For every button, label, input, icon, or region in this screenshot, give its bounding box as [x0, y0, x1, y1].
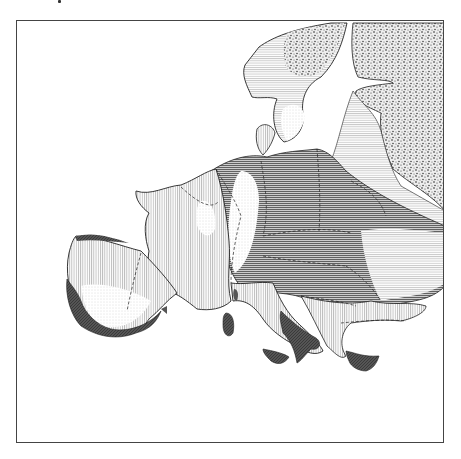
map-frame — [16, 20, 444, 443]
sardinia — [223, 313, 234, 336]
europe-map — [17, 21, 444, 443]
greece-dark — [346, 351, 379, 371]
sweden-south — [281, 105, 305, 141]
denmark — [256, 125, 275, 155]
stray-mark — [58, 0, 61, 3]
sicily — [263, 349, 289, 364]
